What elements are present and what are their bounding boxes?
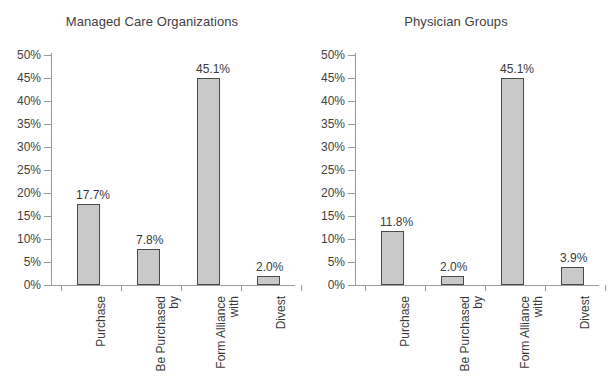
- plot-area-left: 50%45%40%35%30%25%20%15%10%5%0%17.7%Purc…: [0, 0, 304, 392]
- y-axis-tick-right: [348, 55, 356, 56]
- y-axis-tick-right: [348, 170, 356, 171]
- y-axis-tick-left: [44, 170, 52, 171]
- bar-value-label: 2.0%: [440, 261, 467, 273]
- x-axis-tick-right: [365, 285, 366, 291]
- bar: [77, 204, 100, 285]
- x-axis-category-label: Form Alliance with: [519, 296, 545, 392]
- y-axis-tick-label-left: 5%: [0, 256, 41, 268]
- bar: [561, 267, 584, 285]
- bar-value-label: 17.7%: [76, 189, 110, 201]
- bar: [137, 249, 160, 285]
- y-axis-tick-label-right: 0%: [304, 279, 345, 291]
- y-axis-tick-left: [44, 239, 52, 240]
- bar: [441, 276, 464, 285]
- bar: [501, 78, 524, 285]
- y-axis-tick-label-left: 35%: [0, 118, 41, 130]
- x-axis-category-label: Divest: [579, 296, 592, 392]
- x-axis-tick-left: [61, 285, 62, 291]
- x-axis-category-label: Be Purchased by: [459, 296, 485, 392]
- plot-area-right: 50%45%40%35%30%25%20%15%10%5%0%11.8%Purc…: [304, 0, 608, 392]
- y-axis-tick-label-left: 45%: [0, 72, 41, 84]
- bar-value-label: 7.8%: [136, 234, 163, 246]
- y-axis-tick-right: [348, 193, 356, 194]
- y-axis-tick-label-right: 40%: [304, 95, 345, 107]
- bar-value-label: 11.8%: [380, 216, 413, 228]
- x-axis-category-label: Purchase: [95, 296, 108, 392]
- x-axis-tick-right: [425, 285, 426, 291]
- y-axis-tick-left: [44, 262, 52, 263]
- chart-panel-managed-care: Managed Care Organizations 50%45%40%35%3…: [0, 0, 304, 392]
- x-axis-tick-left: [241, 285, 242, 291]
- x-axis-category-label: Purchase: [399, 296, 412, 392]
- y-axis-tick-label-right: 30%: [304, 141, 345, 153]
- y-axis-tick-label-left: 40%: [0, 95, 41, 107]
- y-axis-tick-left: [44, 55, 52, 56]
- y-axis-tick-left: [44, 147, 52, 148]
- y-axis-tick-left: [44, 124, 52, 125]
- y-axis-tick-label-right: 15%: [304, 210, 345, 222]
- y-axis-tick-right: [348, 124, 356, 125]
- y-axis-tick-label-right: 45%: [304, 72, 345, 84]
- x-axis-baseline-left: [51, 285, 295, 286]
- bar: [257, 276, 280, 285]
- y-axis-tick-label-left: 15%: [0, 210, 41, 222]
- y-axis-tick-label-right: 25%: [304, 164, 345, 176]
- y-axis-tick-right: [348, 78, 356, 79]
- y-axis-tick-label-right: 5%: [304, 256, 345, 268]
- x-axis-tick-left: [181, 285, 182, 291]
- y-axis-tick-label-left: 0%: [0, 279, 41, 291]
- y-axis-tick-right: [348, 285, 356, 286]
- x-axis-tick-right: [605, 285, 606, 291]
- bar-value-label: 45.1%: [196, 63, 230, 75]
- y-axis-tick-label-right: 10%: [304, 233, 345, 245]
- y-axis-tick-right: [348, 147, 356, 148]
- y-axis-tick-right: [348, 101, 356, 102]
- y-axis-tick-left: [44, 193, 52, 194]
- y-axis-tick-label-right: 20%: [304, 187, 345, 199]
- x-axis-category-label: Form Alliance with: [215, 296, 241, 392]
- y-axis-tick-right: [348, 239, 356, 240]
- y-axis-tick-label-right: 35%: [304, 118, 345, 130]
- y-axis-tick-label-left: 30%: [0, 141, 41, 153]
- y-axis-tick-label-left: 20%: [0, 187, 41, 199]
- y-axis-tick-left: [44, 285, 52, 286]
- bar-value-label: 45.1%: [500, 63, 534, 75]
- bar-value-label: 2.0%: [256, 261, 283, 273]
- y-axis-tick-right: [348, 216, 356, 217]
- y-axis-tick-left: [44, 216, 52, 217]
- y-axis-tick-label-left: 50%: [0, 49, 41, 61]
- x-axis-tick-right: [545, 285, 546, 291]
- bar: [197, 78, 220, 285]
- x-axis-baseline-right: [355, 285, 599, 286]
- y-axis-tick-label-left: 10%: [0, 233, 41, 245]
- y-axis-tick-label-left: 25%: [0, 164, 41, 176]
- x-axis-category-label: Be Purchased by: [155, 296, 181, 392]
- x-axis-tick-left: [301, 285, 302, 291]
- chart-panel-physician-groups: Physician Groups 50%45%40%35%30%25%20%15…: [304, 0, 608, 392]
- y-axis-tick-left: [44, 101, 52, 102]
- bar-value-label: 3.9%: [560, 252, 587, 264]
- x-axis-tick-left: [121, 285, 122, 291]
- x-axis-category-label: Divest: [275, 296, 288, 392]
- y-axis-tick-label-right: 50%: [304, 49, 345, 61]
- y-axis-tick-left: [44, 78, 52, 79]
- y-axis-tick-right: [348, 262, 356, 263]
- x-axis-tick-right: [485, 285, 486, 291]
- bar: [381, 231, 404, 285]
- figure-two-bar-charts: Managed Care Organizations 50%45%40%35%3…: [0, 0, 608, 392]
